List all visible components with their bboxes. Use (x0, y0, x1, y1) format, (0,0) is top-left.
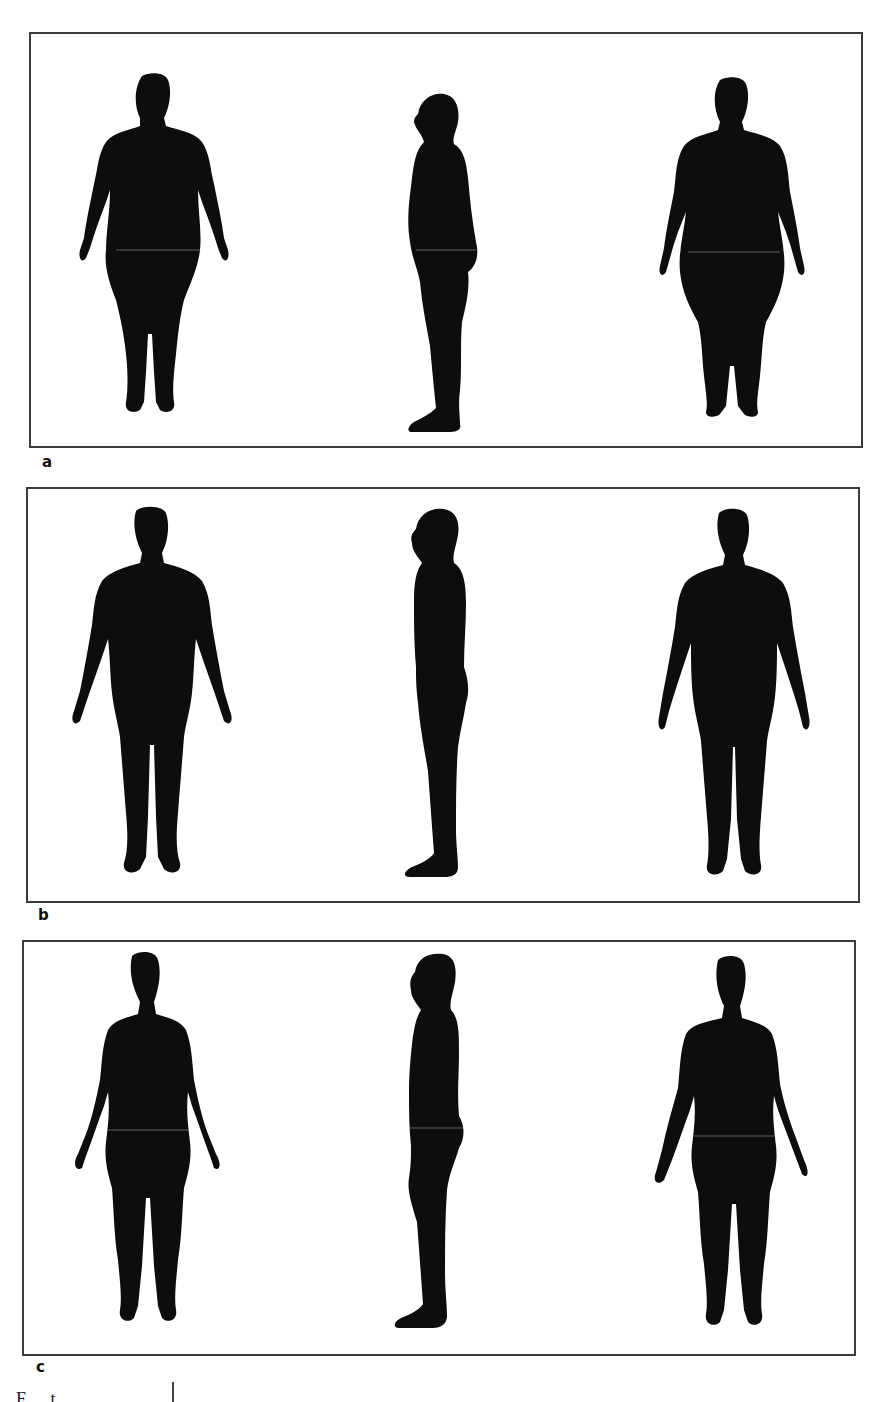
silhouette-a-front (78, 72, 230, 417)
silhouette-a-back (658, 76, 806, 421)
silhouette-b-front (70, 505, 234, 877)
panel-label-c: c (36, 1360, 45, 1375)
silhouette-c-side (393, 952, 465, 1330)
column-divider (172, 1382, 174, 1402)
silhouette-b-side (402, 507, 472, 879)
silhouette-a-side (404, 92, 478, 434)
caption-fragment: F t (16, 1389, 66, 1402)
silhouette-c-back (650, 954, 810, 1330)
panel-label-a: a (42, 455, 52, 470)
silhouette-c-front (72, 950, 222, 1328)
panel-label-b: b (38, 908, 49, 923)
silhouette-b-back (657, 507, 811, 879)
